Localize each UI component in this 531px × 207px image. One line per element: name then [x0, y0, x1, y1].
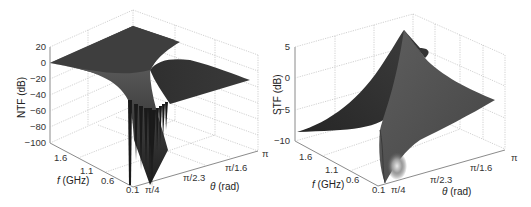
x-tick: 1.1	[325, 164, 338, 175]
y-tick: π/1.6	[225, 162, 247, 173]
x-tick: 0.1	[126, 184, 139, 195]
y-tick: π/2.3	[183, 172, 205, 183]
y-tick: π/2.3	[430, 174, 452, 185]
ntf-surface-wing	[150, 59, 250, 104]
y-tick: π/1.6	[470, 162, 492, 173]
z-tick: −40	[30, 89, 46, 100]
z-tick: −10	[274, 135, 290, 146]
figure: 20 0 −20 −40 −60 −80 −100 NTF (dB) 1.6 1…	[0, 0, 531, 207]
z-tick: −20	[30, 73, 46, 84]
x-tick: 0.6	[346, 174, 359, 185]
ntf-z-label: NTF (dB)	[16, 77, 27, 118]
z-tick: −80	[30, 121, 46, 132]
ntf-plot: 20 0 −20 −40 −60 −80 −100 NTF (dB) 1.6 1…	[16, 10, 269, 195]
z-tick: −60	[30, 105, 46, 116]
stf-x-label: f (GHz)	[312, 179, 344, 190]
y-tick: π	[511, 152, 518, 163]
x-tick: 0.1	[372, 184, 385, 195]
stf-z-label: STF (dB)	[272, 74, 283, 115]
x-tick: 1.6	[299, 151, 312, 162]
z-tick: 20	[35, 41, 46, 52]
y-tick: π/4	[391, 184, 405, 195]
y-tick: π/4	[145, 184, 159, 195]
x-tick: 1.6	[54, 152, 67, 163]
stf-highlight	[387, 152, 407, 180]
ntf-y-label: θ (rad)	[210, 181, 239, 192]
ntf-x-label: f (GHz)	[57, 175, 89, 186]
y-tick: π	[262, 148, 269, 159]
ntf-z-ticks: 20 0 −20 −40 −60 −80 −100	[25, 41, 46, 148]
stf-plot: 5 0 −5 −10 STF (dB) 1.6 1.1 0.6 0.1 f (G…	[272, 14, 518, 197]
z-tick: −100	[25, 137, 46, 148]
z-tick: 0	[41, 57, 46, 68]
x-tick: 0.6	[101, 175, 114, 186]
z-tick: 5	[285, 41, 290, 52]
stf-y-label: θ (rad)	[442, 186, 471, 197]
z-tick: 0	[285, 72, 290, 83]
